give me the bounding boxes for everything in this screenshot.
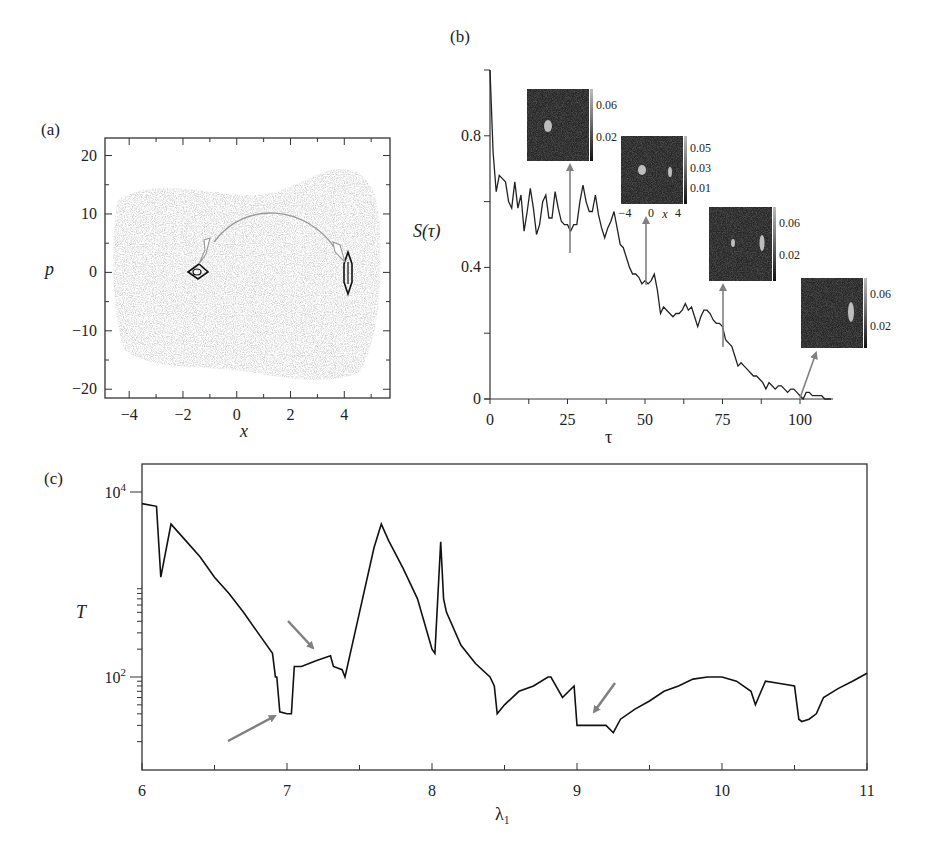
x-tick-label: 0 [486, 411, 494, 428]
x-tick-label: 9 [573, 782, 581, 799]
x-tick-label: 75 [715, 411, 731, 428]
panel-b-insets: 0.060.020.050.030.01−404x0.060.020.060.0… [527, 89, 891, 398]
arrow-icon [228, 716, 275, 741]
panel-c-arrows [228, 621, 615, 741]
y-tick-label: 0 [89, 263, 97, 280]
y-tick-label: −10 [72, 322, 97, 339]
x-tick-label: 50 [637, 411, 653, 428]
arrow-icon [288, 621, 313, 648]
panel-c-ylabel: T [76, 602, 88, 622]
panel-c-label: (c) [44, 469, 63, 488]
y-tick-label: 102 [105, 666, 127, 686]
inset-x-tick-label: −4 [619, 206, 632, 220]
colorbar-tick-label: 0.03 [690, 161, 711, 175]
panel-c: (c) 67891011104102 T λ₁ [44, 464, 875, 824]
x-tick-label: −2 [174, 406, 191, 423]
panel-b-xlabel: τ [605, 427, 612, 447]
panel-a: (a) −4−2024−20−1001020 p x [41, 120, 390, 441]
panel-b-axes: 00.40.80255075100 [461, 70, 833, 428]
figure: (a) −4−2024−20−1001020 p x (b) 00.40.802… [0, 0, 931, 860]
colorbar [684, 136, 687, 204]
phase-space-scatter [113, 169, 380, 380]
x-tick-label: 7 [283, 782, 291, 799]
inset-x-label: x [661, 207, 668, 221]
colorbar [590, 89, 593, 161]
x-tick-label: 8 [428, 782, 436, 799]
x-tick-label: 2 [287, 406, 295, 423]
wigner-inset: 0.050.030.01−404x [619, 136, 711, 285]
x-tick-label: 100 [788, 411, 812, 428]
panel-c-axes: 67891011104102 [105, 481, 875, 799]
colorbar-tick-label: 0.06 [596, 98, 617, 112]
arrow-icon [800, 353, 816, 398]
x-tick-label: 11 [859, 782, 874, 799]
colorbar-tick-label: 0.02 [779, 248, 800, 262]
x-tick-label: 10 [714, 782, 730, 799]
arrow-icon [594, 683, 615, 712]
y-tick-label: 10 [81, 205, 97, 222]
y-tick-label: 104 [105, 481, 127, 501]
y-tick-label: 20 [81, 147, 97, 164]
panel-b-label: (b) [450, 27, 470, 46]
panel-b-ylabel: S(τ) [413, 221, 440, 242]
y-tick-label: 0.4 [461, 258, 481, 275]
panel-b: (b) 00.40.80255075100 0.060.020.050.030.… [413, 27, 891, 447]
colorbar [773, 207, 776, 281]
colorbar-tick-label: 0.06 [870, 287, 891, 301]
colorbar-tick-label: 0.02 [870, 319, 891, 333]
panel-a-label: (a) [41, 120, 60, 139]
colorbar-tick-label: 0.06 [779, 216, 800, 230]
y-tick-label: 0 [473, 390, 481, 407]
x-tick-label: 6 [138, 782, 146, 799]
colorbar-tick-label: 0.01 [690, 181, 711, 195]
inset-x-tick-label: 0 [648, 206, 654, 220]
panel-a-xlabel: x [239, 421, 248, 441]
colorbar-tick-label: 0.05 [690, 141, 711, 155]
wigner-inset: 0.060.02 [800, 278, 891, 398]
panel-c-xlabel: λ₁ [495, 804, 510, 824]
panel-a-ylabel: p [43, 259, 54, 279]
wigner-inset: 0.060.02 [709, 207, 800, 347]
panel-c-frame [142, 464, 867, 770]
inset-x-tick-label: 4 [675, 206, 681, 220]
colorbar-tick-label: 0.02 [596, 130, 617, 144]
y-tick-label: 0.8 [461, 127, 481, 144]
colorbar [864, 278, 867, 348]
y-tick-label: −20 [72, 380, 97, 397]
x-tick-label: −4 [121, 406, 138, 423]
x-tick-label: 25 [560, 411, 576, 428]
tunneling-time-line [142, 504, 867, 733]
x-tick-label: 4 [340, 406, 348, 423]
